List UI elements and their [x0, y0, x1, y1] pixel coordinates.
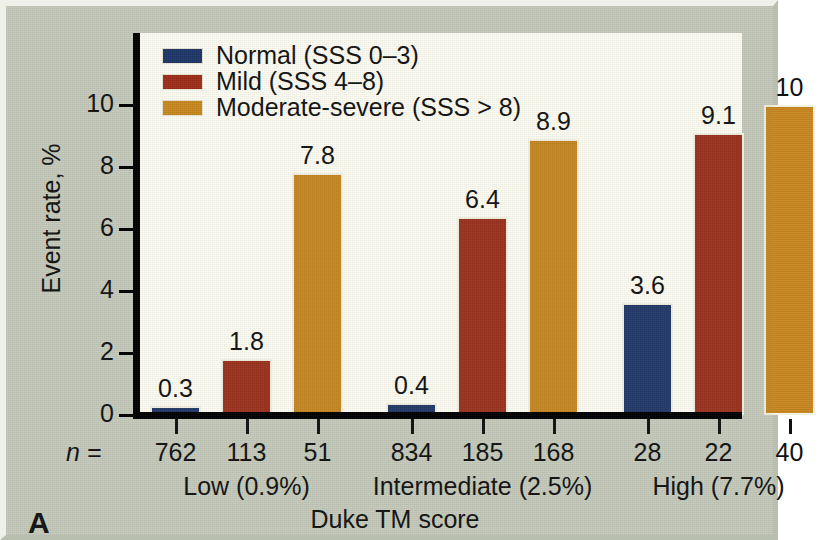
bar	[528, 139, 579, 415]
n-value: 185	[443, 438, 523, 467]
y-axis-tick	[119, 104, 134, 107]
bar-value-label: 9.1	[673, 101, 764, 130]
n-value: 834	[372, 438, 452, 467]
bar-fill	[695, 135, 742, 413]
legend-color-swatch	[162, 74, 203, 90]
n-value: 28	[608, 438, 688, 467]
x-axis-tick	[789, 419, 792, 434]
bar-value-label: 0.3	[130, 374, 221, 403]
bar-value-label: 10	[744, 73, 819, 102]
bar-fill	[223, 361, 270, 413]
bar-value-label: 7.8	[272, 141, 363, 170]
bar-fill	[294, 175, 341, 413]
bar-fill	[459, 219, 506, 413]
x-axis-tick	[647, 419, 650, 434]
group-label: High (7.7%)	[569, 472, 819, 501]
x-axis-tick	[317, 419, 320, 434]
x-axis-tick	[553, 419, 556, 434]
n-value: 762	[136, 438, 216, 467]
chart-legend: Normal (SSS 0–3)Mild (SSS 4–8)Moderate-s…	[162, 44, 521, 122]
bar	[221, 359, 272, 415]
bar	[457, 217, 508, 415]
bar-value-label: 8.9	[508, 107, 599, 136]
x-axis-tick	[718, 419, 721, 434]
legend-color-swatch	[162, 100, 203, 116]
x-axis-tick	[175, 419, 178, 434]
x-axis-tick	[482, 419, 485, 434]
bar-value-label: 0.4	[366, 371, 457, 400]
y-axis-tick	[119, 414, 134, 417]
bar-fill	[624, 305, 671, 413]
y-axis-tick	[119, 290, 134, 293]
bar	[764, 105, 815, 415]
y-axis-title: Event rate, %	[37, 94, 66, 344]
bar	[292, 173, 343, 415]
legend-item: Normal (SSS 0–3)	[162, 44, 521, 67]
bar-value-label: 6.4	[437, 185, 528, 214]
legend-color-swatch	[162, 48, 203, 64]
x-axis-line	[133, 412, 742, 419]
x-axis-tick	[246, 419, 249, 434]
legend-label: Moderate-severe (SSS > 8)	[216, 95, 521, 120]
y-axis-tick	[119, 228, 134, 231]
y-axis-tick	[119, 166, 134, 169]
legend-label: Mild (SSS 4–8)	[216, 69, 384, 94]
legend-label: Normal (SSS 0–3)	[216, 43, 419, 68]
bar	[622, 303, 673, 415]
x-axis-title: Duke TM score	[6, 505, 784, 534]
y-axis-line	[133, 33, 140, 419]
bar-value-label: 1.8	[201, 327, 292, 356]
legend-item: Mild (SSS 4–8)	[162, 70, 521, 93]
bar-fill	[766, 107, 813, 413]
x-axis-tick	[411, 419, 414, 434]
bar	[693, 133, 744, 415]
y-axis-tick-label: 0	[54, 399, 114, 428]
n-value: 40	[750, 438, 819, 467]
bar-value-label: 3.6	[602, 271, 693, 300]
y-axis-tick	[119, 352, 134, 355]
n-value: 113	[207, 438, 287, 467]
legend-item: Moderate-severe (SSS > 8)	[162, 96, 521, 119]
n-value: 168	[514, 438, 594, 467]
bar-fill	[530, 141, 577, 413]
panel-label: A	[28, 506, 50, 540]
n-row-label: n =	[66, 438, 101, 467]
n-value: 51	[278, 438, 358, 467]
n-value: 22	[679, 438, 759, 467]
